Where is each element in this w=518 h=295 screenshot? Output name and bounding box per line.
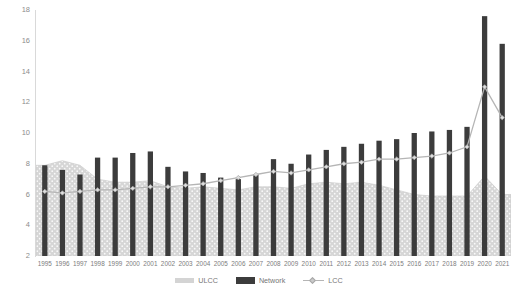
legend-item-ulcc[interactable]: ULCC <box>175 277 218 284</box>
bar <box>130 153 135 256</box>
x-tick-label: 2008 <box>265 258 283 270</box>
x-tick-label: 1995 <box>36 258 54 270</box>
bar <box>165 167 170 256</box>
bar <box>500 44 505 256</box>
chart-container: 24681012141618 1995199619971998199920002… <box>0 0 518 295</box>
legend-label-network: Network <box>259 277 285 284</box>
bar <box>77 175 82 256</box>
area-swatch-icon <box>175 278 194 283</box>
bar <box>60 170 65 256</box>
y-tick-label: 2 <box>26 252 30 260</box>
y-tick-label: 14 <box>22 68 30 76</box>
x-tick-label: 2020 <box>476 258 494 270</box>
x-tick-label: 2010 <box>300 258 318 270</box>
x-tick-label: 2017 <box>423 258 441 270</box>
y-tick-label: 8 <box>26 160 30 168</box>
plot-area <box>36 10 511 256</box>
x-tick-label: 2015 <box>388 258 406 270</box>
bar <box>288 164 293 256</box>
x-tick-label: 1997 <box>71 258 89 270</box>
y-tick-label: 16 <box>22 37 30 45</box>
y-tick-label: 12 <box>22 99 30 107</box>
legend-item-lcc[interactable]: LCC <box>303 277 342 284</box>
bar <box>148 151 153 256</box>
x-tick-label: 2003 <box>177 258 195 270</box>
bar <box>429 131 434 256</box>
legend-label-ulcc: ULCC <box>198 277 218 284</box>
x-tick-label: 2002 <box>159 258 177 270</box>
bar <box>218 178 223 256</box>
x-tick-label: 1998 <box>89 258 107 270</box>
y-tick-label: 6 <box>26 191 30 199</box>
x-tick-label: 2016 <box>405 258 423 270</box>
y-tick-label: 18 <box>22 6 30 14</box>
x-tick-label: 2000 <box>124 258 142 270</box>
legend-item-network[interactable]: Network <box>236 277 285 284</box>
chart-legend: ULCC Network LCC <box>0 274 518 288</box>
bar-swatch-icon <box>236 277 255 284</box>
bar <box>95 158 100 256</box>
x-tick-label: 2001 <box>142 258 160 270</box>
x-tick-label: 2004 <box>194 258 212 270</box>
bar <box>253 175 258 256</box>
x-tick-label: 2013 <box>353 258 371 270</box>
x-axis: 1995199619971998199920002001200220032004… <box>36 258 511 270</box>
bar <box>482 16 487 256</box>
legend-label-lcc: LCC <box>328 277 342 284</box>
x-tick-label: 2014 <box>370 258 388 270</box>
x-tick-label: 2005 <box>212 258 230 270</box>
y-tick-label: 4 <box>26 222 30 230</box>
x-tick-label: 2006 <box>230 258 248 270</box>
bar <box>447 130 452 256</box>
bar <box>412 133 417 256</box>
x-tick-label: 1996 <box>54 258 72 270</box>
bar <box>113 158 118 256</box>
line-swatch-icon <box>303 277 324 284</box>
x-tick-label: 2007 <box>247 258 265 270</box>
x-tick-label: 2011 <box>318 258 336 270</box>
x-tick-label: 2021 <box>493 258 511 270</box>
bar <box>236 179 241 256</box>
y-axis: 24681012141618 <box>0 0 34 256</box>
line-marker <box>236 175 240 179</box>
x-tick-label: 2019 <box>458 258 476 270</box>
x-tick-label: 2018 <box>441 258 459 270</box>
bar <box>42 165 47 256</box>
x-tick-label: 2009 <box>282 258 300 270</box>
chart-svg <box>36 10 511 256</box>
x-tick-label: 1999 <box>106 258 124 270</box>
y-tick-label: 10 <box>22 129 30 137</box>
x-tick-label: 2012 <box>335 258 353 270</box>
